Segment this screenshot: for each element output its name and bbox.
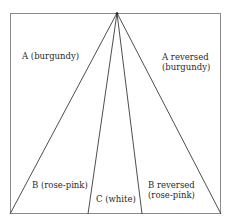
label-b-rose-pink: B (rose-pink) (32, 180, 88, 190)
label-b-line1: B (rose-pink) (32, 180, 88, 190)
label-b-reversed-line1: B reversed (148, 180, 195, 190)
label-c-line1: C (white) (96, 194, 136, 204)
label-a-burgundy: A (burgundy) (22, 51, 79, 61)
label-c-white: C (white) (96, 194, 136, 204)
ray-center-right (117, 13, 142, 214)
label-a-reversed-line2: (burgundy) (162, 62, 210, 72)
label-a-line1: A (burgundy) (22, 51, 79, 61)
ray-center-left (88, 13, 117, 214)
label-a-reversed-line1: A reversed (162, 52, 210, 62)
label-b-reversed-line2: (rose-pink) (148, 190, 195, 200)
label-b-reversed-rose-pink: B reversed (rose-pink) (148, 180, 195, 200)
apex-point (116, 12, 119, 15)
fan-diagram: A (burgundy) A reversed (burgundy) B (ro… (0, 0, 227, 223)
label-a-reversed-burgundy: A reversed (burgundy) (162, 52, 210, 72)
